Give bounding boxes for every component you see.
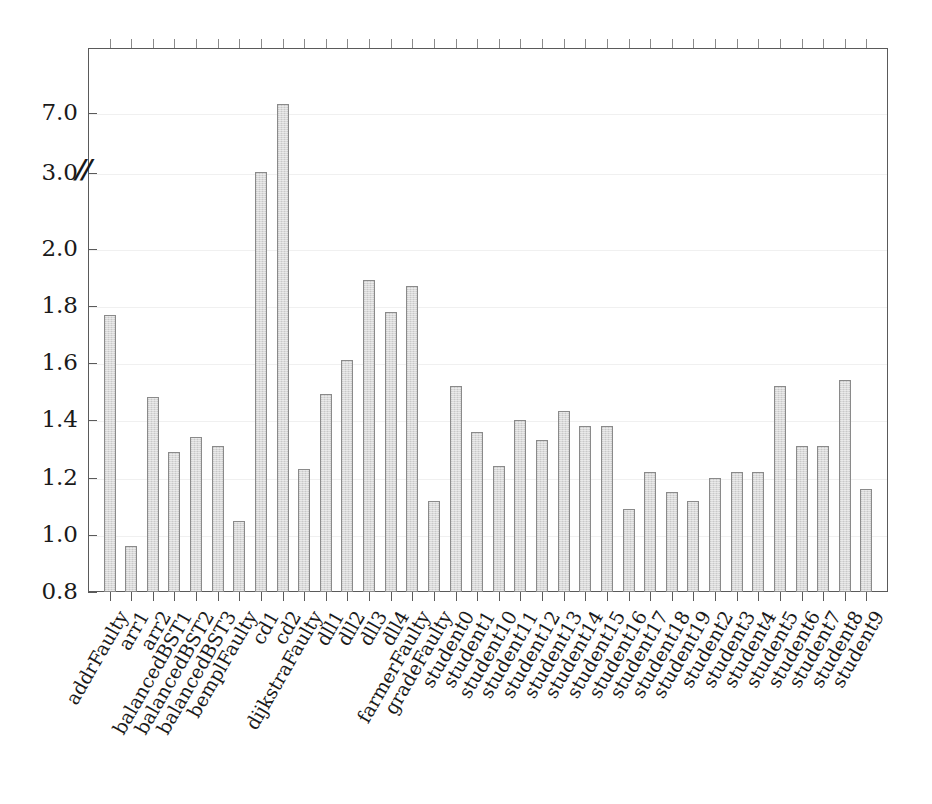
gridline (89, 250, 887, 251)
y-tick-label: 1.0 (0, 523, 78, 546)
x-tick-top (585, 39, 586, 48)
y-tick (88, 478, 97, 479)
x-tick-top (261, 39, 262, 48)
x-tick-top (499, 39, 500, 48)
x-tick-top (347, 39, 348, 48)
y-tick-label: 0.8 (0, 580, 78, 603)
gridline (89, 114, 887, 115)
gridline (89, 174, 887, 175)
x-tick-top (153, 39, 154, 48)
y-tick (88, 249, 97, 250)
x-tick-top (326, 39, 327, 48)
y-tick-label: 2.0 (0, 237, 78, 260)
x-tick-top (780, 39, 781, 48)
x-tick-top (391, 39, 392, 48)
x-tick-top (304, 39, 305, 48)
gridline (89, 364, 887, 365)
x-tick-top (239, 39, 240, 48)
x-tick-top (693, 39, 694, 48)
gridline (89, 307, 887, 308)
x-tick-top (218, 39, 219, 48)
bar (406, 286, 418, 592)
x-tick-top (283, 39, 284, 48)
x-tick-top (412, 39, 413, 48)
x-tick-top (672, 39, 673, 48)
y-tick (88, 306, 97, 307)
x-tick-label-text: addrFaulty (62, 606, 132, 708)
x-tick-top (196, 39, 197, 48)
y-tick-label: 1.6 (0, 351, 78, 374)
y-tick (88, 113, 97, 114)
x-tick (110, 592, 111, 601)
x-tick-top (629, 39, 630, 48)
x-tick-top (607, 39, 608, 48)
x-tick-top (866, 39, 867, 48)
gridline (89, 421, 887, 422)
y-tick-label: 1.2 (0, 466, 78, 489)
gridline (89, 479, 887, 480)
x-tick-top (434, 39, 435, 48)
x-tick-top (542, 39, 543, 48)
y-tick (88, 363, 97, 364)
x-tick-top (456, 39, 457, 48)
x-tick-top (845, 39, 846, 48)
y-tick (88, 173, 97, 174)
y-tick-label: 3.0 (0, 161, 78, 184)
x-tick-top (110, 39, 111, 48)
bar (320, 394, 332, 592)
bar (385, 312, 397, 592)
bar-chart: 0.81.01.21.41.61.82.03.07.0 addrFaultyar… (0, 0, 932, 804)
x-tick-top (650, 39, 651, 48)
x-tick-top (477, 39, 478, 48)
bar (104, 315, 116, 592)
y-tick-label: 1.4 (0, 408, 78, 431)
x-tick-top (520, 39, 521, 48)
y-tick (88, 592, 97, 593)
x-tick-top (737, 39, 738, 48)
x-tick-top (823, 39, 824, 48)
y-tick (88, 535, 97, 536)
x-tick-top (131, 39, 132, 48)
x-tick-top (758, 39, 759, 48)
y-tick-label: 1.8 (0, 294, 78, 317)
x-tick-top (715, 39, 716, 48)
x-tick-top (802, 39, 803, 48)
x-tick-top (369, 39, 370, 48)
x-tick-top (564, 39, 565, 48)
y-tick (88, 420, 97, 421)
x-tick-top (174, 39, 175, 48)
y-tick-label: 7.0 (0, 101, 78, 124)
